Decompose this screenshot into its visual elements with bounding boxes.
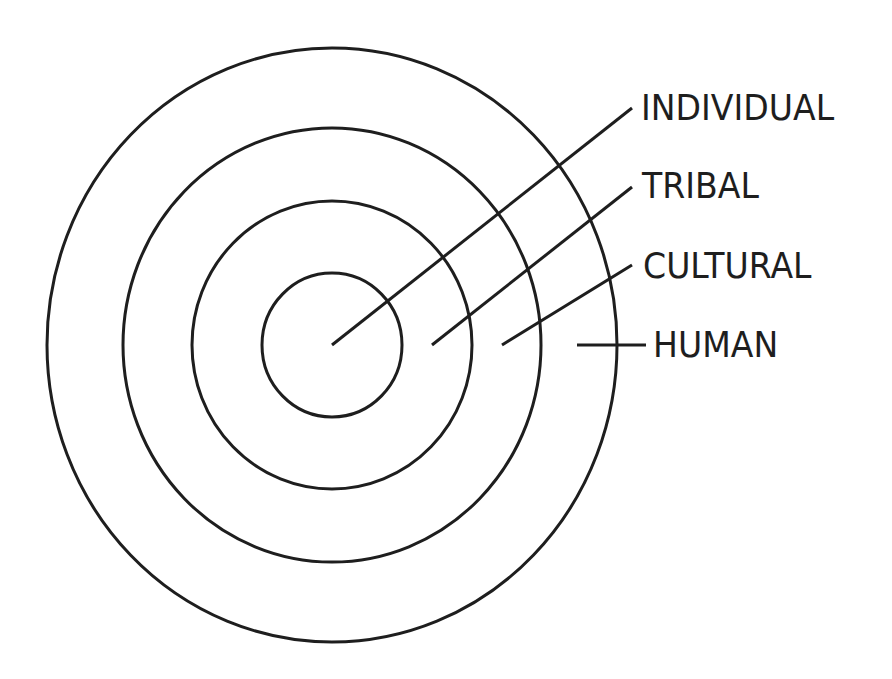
leader-line-individual bbox=[332, 108, 632, 345]
label-cultural: CULTURAL bbox=[643, 248, 812, 284]
label-tribal: TRIBAL bbox=[642, 168, 759, 204]
leader-line-cultural bbox=[502, 265, 632, 345]
leader-line-tribal bbox=[432, 187, 632, 345]
label-human: HUMAN bbox=[653, 327, 778, 363]
label-individual: INDIVIDUAL bbox=[641, 90, 834, 126]
